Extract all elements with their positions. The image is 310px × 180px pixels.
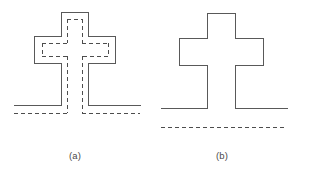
panel-b-caption: (b) <box>199 150 245 161</box>
diagram-canvas <box>0 0 310 180</box>
panel-a <box>14 12 140 113</box>
panel-b-solid-outline <box>161 13 287 108</box>
figure-root: (a) (b) <box>0 0 310 180</box>
panel-a-dashed-offset-contour <box>14 19 140 113</box>
panel-a-caption: (a) <box>52 150 98 161</box>
panel-b <box>161 13 287 127</box>
panel-a-solid-outline <box>14 12 140 105</box>
